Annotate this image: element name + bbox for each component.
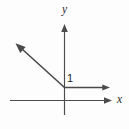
- graph-figure: y x 1: [0, 0, 129, 129]
- function-left-branch: [16, 43, 65, 87]
- y-axis-label: y: [62, 4, 67, 16]
- coordinate-plane-svg: [0, 0, 129, 129]
- x-axis: [10, 97, 112, 104]
- y-intercept-tick-label: 1: [67, 73, 73, 84]
- y-axis: [61, 24, 68, 115]
- x-axis-arrowhead-icon: [104, 97, 112, 104]
- left-branch-segment: [22, 49, 65, 88]
- right-branch-arrowhead-icon: [102, 84, 110, 90]
- function-right-branch: [65, 84, 111, 90]
- y-axis-arrowhead-icon: [61, 24, 68, 32]
- x-axis-label: x: [117, 94, 122, 106]
